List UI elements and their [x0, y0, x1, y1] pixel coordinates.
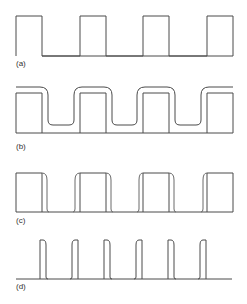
panel-label-d: (d) — [16, 282, 26, 291]
panel-label-c: (c) — [16, 216, 26, 225]
response-curve-b — [16, 87, 233, 125]
panel-a: (a) — [16, 16, 233, 68]
panel-d: (d) — [16, 240, 232, 291]
pulse-d — [40, 240, 48, 279]
panel-c: (c) — [16, 173, 233, 225]
pulse-d — [134, 240, 142, 279]
panel-label-b: (b) — [16, 142, 26, 151]
response-curve-c — [42, 173, 207, 212]
square-wave-a — [16, 16, 233, 56]
pulse-d — [198, 240, 206, 279]
pulse-train-d — [40, 240, 206, 279]
square-wave-b — [16, 93, 233, 133]
pulse-d — [168, 240, 176, 279]
panel-b: (b) — [16, 87, 233, 151]
pulse-d — [104, 240, 112, 279]
waveform-figure: (a) (b) (c) (d) — [0, 0, 247, 304]
panel-label-a: (a) — [16, 59, 26, 68]
pulse-d — [70, 240, 78, 279]
square-wave-c — [16, 173, 233, 212]
